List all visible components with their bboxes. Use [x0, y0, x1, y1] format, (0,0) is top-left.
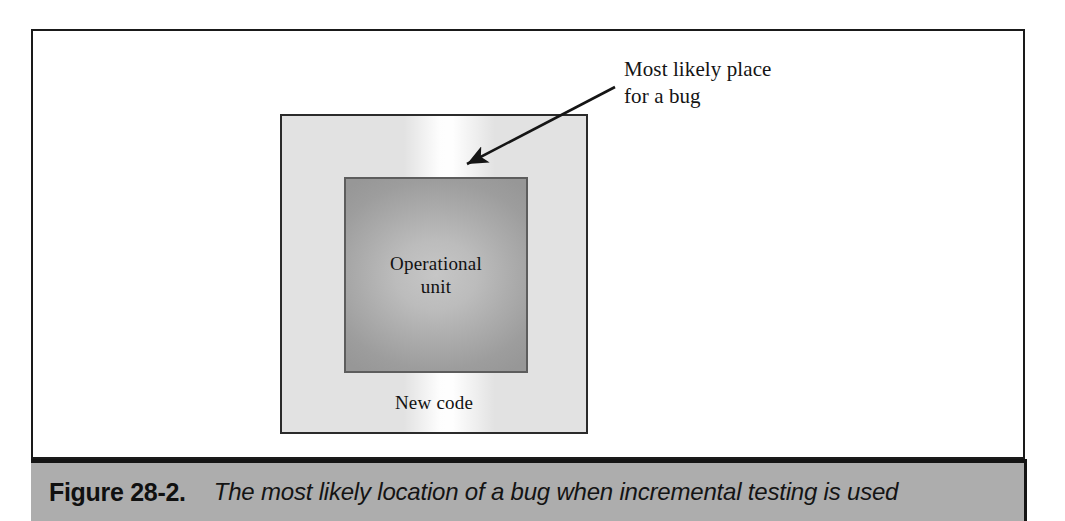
figure-caption-bar: Figure 28-2. The most likely location of…	[31, 459, 1027, 521]
operational-unit-label: Operational unit	[390, 252, 482, 298]
figure-frame: New code Operational unit Most likely pl…	[31, 29, 1025, 459]
operational-unit-box: Operational unit	[344, 177, 528, 373]
figure-caption-text: The most likely location of a bug when i…	[214, 478, 899, 506]
new-code-label: New code	[282, 392, 586, 414]
callout-label: Most likely place for a bug	[624, 56, 772, 110]
figure-number: Figure 28-2.	[49, 478, 186, 507]
figure-page: New code Operational unit Most likely pl…	[0, 0, 1065, 521]
diagram-area: New code Operational unit Most likely pl…	[33, 31, 1027, 459]
